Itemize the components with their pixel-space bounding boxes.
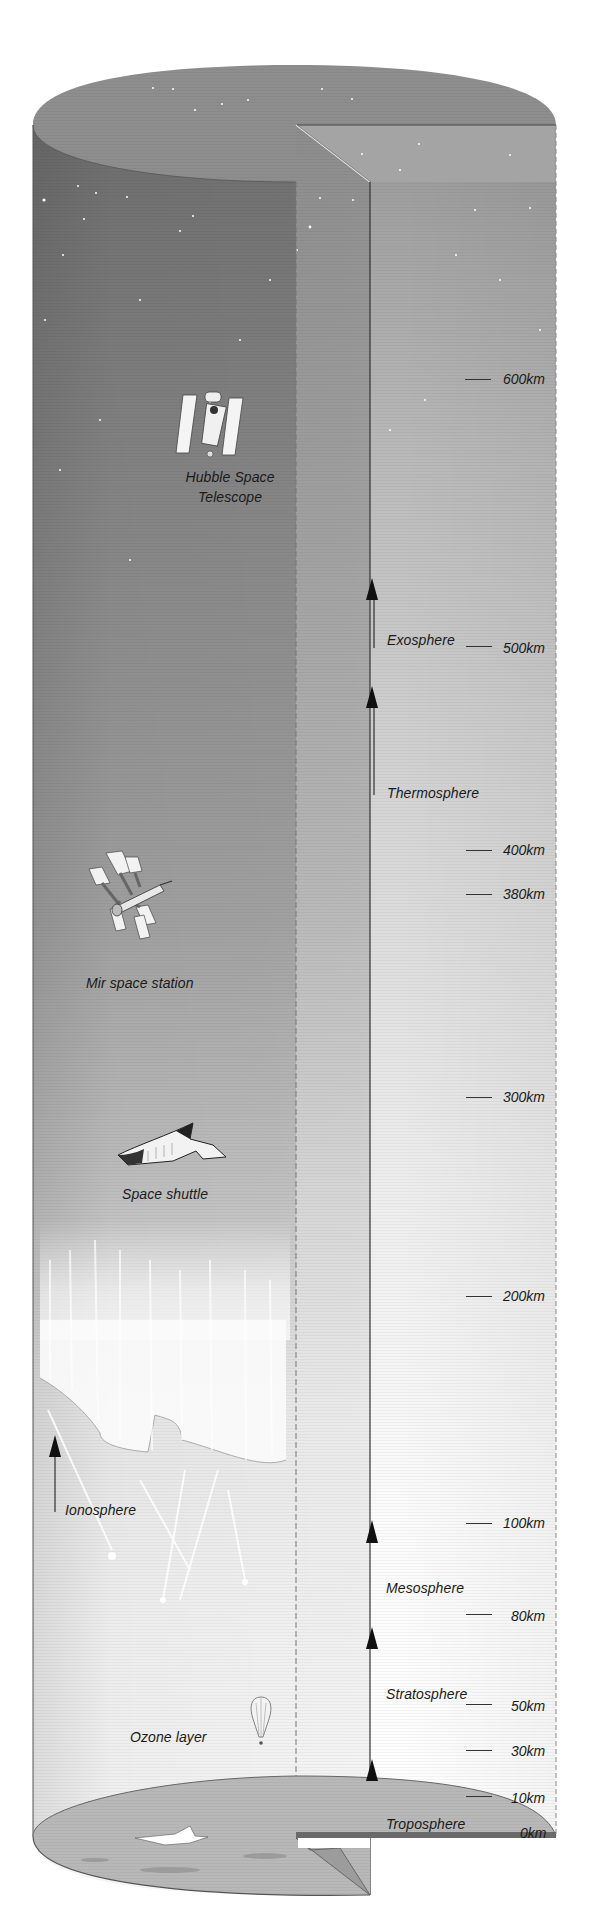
altitude-50km: 50km xyxy=(511,1699,545,1713)
altitude-100km: 100km xyxy=(503,1516,545,1530)
ozone-layer-label: Ozone layer xyxy=(130,1730,207,1744)
mir-label: Mir space station xyxy=(86,976,194,990)
tick-10km xyxy=(466,1796,492,1797)
stratosphere-label: Stratosphere xyxy=(386,1687,467,1701)
tick-300km xyxy=(466,1097,492,1098)
thermosphere-label: Thermosphere xyxy=(387,786,479,800)
tick-400km xyxy=(466,850,492,851)
tick-380km xyxy=(466,894,492,895)
tick-80km xyxy=(466,1614,492,1615)
troposphere-label: Troposphere xyxy=(386,1817,465,1831)
mesosphere-label: Mesosphere xyxy=(386,1581,464,1595)
altitude-80km: 80km xyxy=(511,1609,545,1623)
cylinder-illustration xyxy=(0,0,591,1930)
altitude-10km: 10km xyxy=(511,1791,545,1805)
altitude-400km: 400km xyxy=(503,843,545,857)
tick-100km xyxy=(466,1523,492,1524)
altitude-200km: 200km xyxy=(503,1289,545,1303)
altitude-0km: 0km xyxy=(520,1826,546,1840)
atmosphere-diagram: Hubble Space Telescope Mir space station… xyxy=(0,0,591,1930)
tick-30km xyxy=(466,1750,492,1751)
hubble-label-line2: Telescope xyxy=(160,490,300,504)
hubble-label-line1: Hubble Space xyxy=(160,470,300,484)
ionosphere-label: Ionosphere xyxy=(65,1503,136,1517)
altitude-500km: 500km xyxy=(503,641,545,655)
altitude-30km: 30km xyxy=(511,1744,545,1758)
exosphere-label: Exosphere xyxy=(387,633,455,647)
altitude-300km: 300km xyxy=(503,1090,545,1104)
altitude-600km: 600km xyxy=(503,372,545,386)
altitude-380km: 380km xyxy=(503,887,545,901)
tick-50km xyxy=(466,1704,492,1705)
tick-500km xyxy=(466,646,492,647)
tick-200km xyxy=(466,1296,492,1297)
space-shuttle-label: Space shuttle xyxy=(122,1187,208,1201)
tick-600km xyxy=(465,379,491,380)
